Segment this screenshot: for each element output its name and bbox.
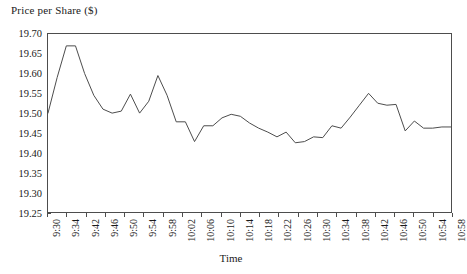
x-tick-label: 10:34 [340, 219, 351, 242]
x-tick-mark [375, 213, 376, 217]
x-tick-mark [298, 213, 299, 217]
x-tick-label: 10:14 [244, 219, 255, 242]
x-tick-label: 9:30 [51, 219, 62, 237]
x-tick-label: 10:06 [205, 219, 216, 242]
x-tick-label: 10:22 [282, 219, 293, 242]
x-tick-mark [452, 213, 453, 217]
y-tick-label: 19.65 [0, 48, 42, 59]
x-tick-label: 10:54 [437, 219, 448, 242]
x-tick-mark [317, 213, 318, 217]
x-tick-label: 10:38 [360, 219, 371, 242]
x-tick-label: 9:34 [70, 219, 81, 237]
x-tick-mark [105, 213, 106, 217]
x-tick-mark [143, 213, 144, 217]
price-line-series [48, 34, 451, 212]
price-line-path [48, 46, 451, 143]
y-tick-label: 19.30 [0, 188, 42, 199]
x-tick-label: 10:42 [379, 219, 390, 242]
x-tick-label: 10:18 [263, 219, 274, 242]
x-tick-mark [336, 213, 337, 217]
y-tick-label: 19.35 [0, 168, 42, 179]
x-tick-label: 10:50 [417, 219, 428, 242]
x-tick-mark [182, 213, 183, 217]
x-axis-title: Time [0, 252, 462, 264]
x-tick-mark [163, 213, 164, 217]
x-tick-label: 9:42 [90, 219, 101, 237]
y-tick-label: 19.50 [0, 108, 42, 119]
x-tick-mark [240, 213, 241, 217]
x-tick-label: 10:46 [398, 219, 409, 242]
x-tick-mark [433, 213, 434, 217]
x-tick-mark [201, 213, 202, 217]
plot-area [47, 33, 452, 213]
x-tick-label: 9:54 [147, 219, 158, 237]
x-tick-label: 10:58 [456, 219, 467, 242]
y-tick-label: 19.25 [0, 208, 42, 219]
x-tick-label: 9:46 [109, 219, 120, 237]
y-tick-label: 19.40 [0, 148, 42, 159]
x-tick-mark [259, 213, 260, 217]
x-tick-mark [413, 213, 414, 217]
x-tick-mark [221, 213, 222, 217]
y-tick-label: 19.55 [0, 88, 42, 99]
x-tick-mark [356, 213, 357, 217]
y-tick-label: 19.60 [0, 68, 42, 79]
x-tick-label: 10:02 [186, 219, 197, 242]
x-tick-mark [124, 213, 125, 217]
x-tick-label: 9:58 [167, 219, 178, 237]
y-tick-label: 19.70 [0, 28, 42, 39]
y-axis-title: Price per Share ($) [11, 4, 98, 16]
x-tick-label: 10:26 [302, 219, 313, 242]
x-tick-mark [86, 213, 87, 217]
x-tick-mark [394, 213, 395, 217]
x-tick-mark [66, 213, 67, 217]
x-tick-label: 10:10 [225, 219, 236, 242]
y-tick-label: 19.45 [0, 128, 42, 139]
x-tick-label: 9:50 [128, 219, 139, 237]
x-tick-mark [278, 213, 279, 217]
x-tick-label: 10:30 [321, 219, 332, 242]
x-tick-mark [47, 213, 48, 217]
